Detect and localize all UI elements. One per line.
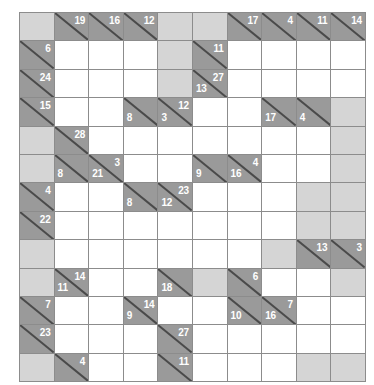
kakuro-entry-cell[interactable] [296, 69, 331, 97]
kakuro-entry-cell[interactable] [123, 268, 158, 296]
entry-cell-surface[interactable] [228, 212, 262, 239]
entry-cell-surface[interactable] [262, 212, 296, 239]
entry-cell-surface[interactable] [89, 240, 123, 267]
entry-cell-surface[interactable] [193, 183, 227, 210]
entry-cell-surface[interactable] [331, 325, 365, 352]
entry-cell-surface[interactable] [228, 183, 262, 210]
kakuro-entry-cell[interactable] [123, 41, 158, 69]
kakuro-entry-cell[interactable] [158, 240, 193, 268]
kakuro-entry-cell[interactable] [123, 69, 158, 97]
kakuro-entry-cell[interactable] [262, 211, 297, 239]
entry-cell-surface[interactable] [297, 297, 331, 324]
kakuro-entry-cell[interactable] [158, 154, 193, 182]
entry-cell-surface[interactable] [158, 155, 192, 182]
kakuro-entry-cell[interactable] [89, 41, 124, 69]
kakuro-entry-cell[interactable] [54, 211, 89, 239]
entry-cell-surface[interactable] [297, 269, 331, 296]
kakuro-entry-cell[interactable] [123, 126, 158, 154]
entry-cell-surface[interactable] [228, 98, 262, 125]
entry-cell-surface[interactable] [124, 240, 158, 267]
kakuro-entry-cell[interactable] [89, 268, 124, 296]
entry-cell-surface[interactable] [124, 70, 158, 97]
kakuro-entry-cell[interactable] [192, 211, 227, 239]
kakuro-entry-cell[interactable] [262, 126, 297, 154]
entry-cell-surface[interactable] [89, 212, 123, 239]
kakuro-entry-cell[interactable] [331, 41, 366, 69]
entry-cell-surface[interactable] [228, 354, 262, 381]
entry-cell-surface[interactable] [262, 70, 296, 97]
kakuro-entry-cell[interactable] [54, 240, 89, 268]
kakuro-entry-cell[interactable] [192, 183, 227, 211]
kakuro-entry-cell[interactable] [262, 69, 297, 97]
kakuro-entry-cell[interactable] [192, 353, 227, 381]
kakuro-entry-cell[interactable] [227, 240, 262, 268]
entry-cell-surface[interactable] [124, 155, 158, 182]
kakuro-entry-cell[interactable] [54, 183, 89, 211]
kakuro-entry-cell[interactable] [296, 126, 331, 154]
entry-cell-surface[interactable] [193, 98, 227, 125]
entry-cell-surface[interactable] [193, 354, 227, 381]
entry-cell-surface[interactable] [262, 354, 296, 381]
entry-cell-surface[interactable] [331, 41, 365, 68]
entry-cell-surface[interactable] [228, 41, 262, 68]
entry-cell-surface[interactable] [55, 183, 89, 210]
entry-cell-surface[interactable] [331, 297, 365, 324]
entry-cell-surface[interactable] [124, 269, 158, 296]
kakuro-entry-cell[interactable] [89, 325, 124, 353]
kakuro-entry-cell[interactable] [331, 296, 366, 324]
entry-cell-surface[interactable] [193, 325, 227, 352]
entry-cell-surface[interactable] [55, 98, 89, 125]
kakuro-entry-cell[interactable] [89, 353, 124, 381]
entry-cell-surface[interactable] [89, 297, 123, 324]
entry-cell-surface[interactable] [262, 127, 296, 154]
kakuro-entry-cell[interactable] [331, 325, 366, 353]
entry-cell-surface[interactable] [297, 41, 331, 68]
entry-cell-surface[interactable] [124, 127, 158, 154]
kakuro-entry-cell[interactable] [192, 98, 227, 126]
kakuro-entry-cell[interactable] [54, 41, 89, 69]
entry-cell-surface[interactable] [158, 240, 192, 267]
kakuro-entry-cell[interactable] [192, 240, 227, 268]
kakuro-entry-cell[interactable] [192, 325, 227, 353]
entry-cell-surface[interactable] [124, 41, 158, 68]
entry-cell-surface[interactable] [297, 70, 331, 97]
entry-cell-surface[interactable] [89, 41, 123, 68]
entry-cell-surface[interactable] [228, 127, 262, 154]
entry-cell-surface[interactable] [124, 212, 158, 239]
entry-cell-surface[interactable] [228, 70, 262, 97]
kakuro-entry-cell[interactable] [158, 296, 193, 324]
kakuro-entry-cell[interactable] [89, 296, 124, 324]
entry-cell-surface[interactable] [55, 325, 89, 352]
kakuro-entry-cell[interactable] [331, 69, 366, 97]
entry-cell-surface[interactable] [297, 155, 331, 182]
entry-cell-surface[interactable] [193, 240, 227, 267]
kakuro-entry-cell[interactable] [227, 211, 262, 239]
kakuro-entry-cell[interactable] [227, 98, 262, 126]
kakuro-entry-cell[interactable] [227, 126, 262, 154]
entry-cell-surface[interactable] [262, 155, 296, 182]
kakuro-entry-cell[interactable] [262, 154, 297, 182]
kakuro-entry-cell[interactable] [262, 41, 297, 69]
kakuro-entry-cell[interactable] [89, 98, 124, 126]
entry-cell-surface[interactable] [331, 70, 365, 97]
kakuro-entry-cell[interactable] [227, 183, 262, 211]
entry-cell-surface[interactable] [262, 183, 296, 210]
entry-cell-surface[interactable] [89, 98, 123, 125]
kakuro-entry-cell[interactable] [227, 41, 262, 69]
kakuro-entry-cell[interactable] [123, 240, 158, 268]
kakuro-entry-cell[interactable] [89, 211, 124, 239]
entry-cell-surface[interactable] [89, 325, 123, 352]
entry-cell-surface[interactable] [262, 269, 296, 296]
kakuro-entry-cell[interactable] [54, 98, 89, 126]
entry-cell-surface[interactable] [55, 212, 89, 239]
kakuro-entry-cell[interactable] [262, 353, 297, 381]
entry-cell-surface[interactable] [297, 127, 331, 154]
kakuro-entry-cell[interactable] [89, 126, 124, 154]
kakuro-entry-cell[interactable] [262, 325, 297, 353]
kakuro-entry-cell[interactable] [123, 154, 158, 182]
entry-cell-surface[interactable] [158, 127, 192, 154]
kakuro-entry-cell[interactable] [89, 69, 124, 97]
kakuro-entry-cell[interactable] [123, 211, 158, 239]
kakuro-entry-cell[interactable] [262, 183, 297, 211]
kakuro-entry-cell[interactable] [262, 268, 297, 296]
